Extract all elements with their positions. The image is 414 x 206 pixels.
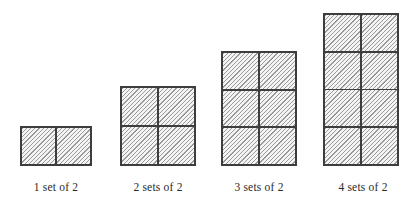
- unit-square: [362, 90, 397, 126]
- unit-square: [122, 88, 157, 125]
- unit-square: [159, 127, 194, 164]
- unit-square: [325, 15, 360, 51]
- grid-4-sets-of-2: [323, 13, 399, 166]
- unit-square: [325, 128, 360, 164]
- unit-square: [122, 127, 157, 164]
- unit-square: [223, 53, 258, 89]
- unit-square: [22, 128, 55, 164]
- sets-of-two-diagram: 1 set of 2 2 sets of 2 3 sets of 2 4 set…: [0, 0, 414, 206]
- unit-square: [362, 53, 397, 89]
- grid-3-sets-of-2: [221, 51, 297, 166]
- unit-square: [260, 128, 295, 164]
- unit-square: [159, 88, 194, 125]
- caption-4-sets-of-2: 4 sets of 2: [311, 180, 414, 194]
- unit-square: [260, 53, 295, 89]
- unit-square: [362, 15, 397, 51]
- unit-square: [325, 90, 360, 126]
- unit-square: [223, 91, 258, 127]
- unit-square: [362, 128, 397, 164]
- unit-square: [223, 128, 258, 164]
- grid-2-sets-of-2: [120, 86, 196, 166]
- unit-square: [325, 53, 360, 89]
- grid-1-set-of-2: [20, 126, 92, 166]
- unit-square: [260, 91, 295, 127]
- caption-3-sets-of-2: 3 sets of 2: [207, 180, 311, 194]
- caption-2-sets-of-2: 2 sets of 2: [106, 180, 210, 194]
- unit-square: [57, 128, 90, 164]
- caption-1-set-of-2: 1 set of 2: [6, 180, 106, 194]
